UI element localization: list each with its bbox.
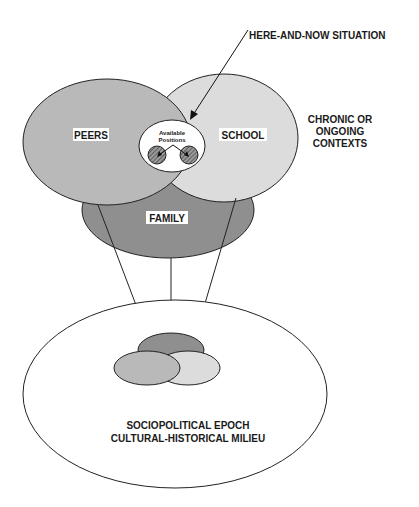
epoch-ellipse — [23, 300, 327, 488]
position-right-icon — [180, 146, 198, 164]
epoch-label-1: SOCIOPOLITICAL EPOCH — [126, 420, 249, 431]
epoch-label-2: CULTURAL-HISTORICAL MILIEU — [111, 433, 265, 444]
peers-label: PEERS — [74, 130, 108, 141]
context-diagram: Available Positions PEERS SCHOOL FAMILY … — [0, 0, 419, 507]
school-label: SCHOOL — [222, 130, 265, 141]
positions-label-2: Positions — [158, 137, 186, 143]
context-label-3: CONTEXTS — [313, 138, 368, 149]
positions-label-1: Available — [159, 130, 186, 136]
callout-label: HERE-AND-NOW SITUATION — [249, 30, 385, 41]
context-label-2: ONGOING — [316, 126, 365, 137]
mini-peers-ellipse — [114, 351, 180, 385]
context-label-1: CHRONIC OR — [308, 114, 373, 125]
family-label: FAMILY — [149, 213, 185, 224]
position-left-icon — [148, 146, 166, 164]
